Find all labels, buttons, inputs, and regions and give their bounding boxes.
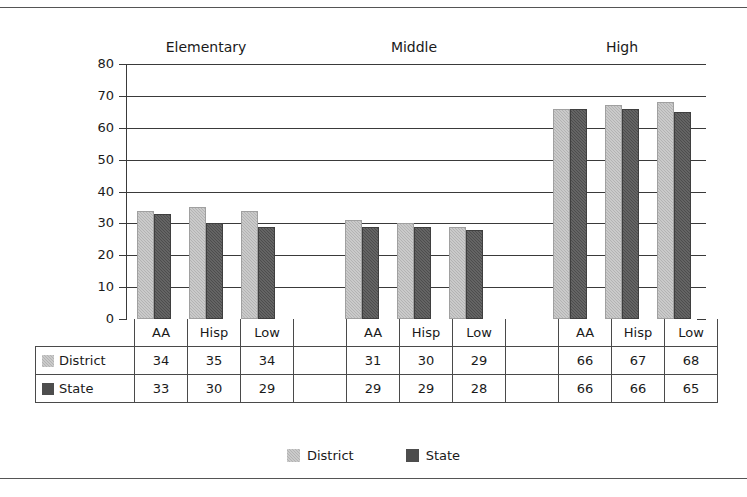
- bar-group: [180, 64, 232, 319]
- bar-state: [466, 230, 483, 319]
- legend-label: State: [426, 448, 460, 463]
- table-value-cell: 29: [241, 375, 294, 403]
- group-heading-high: High: [544, 40, 700, 55]
- table-category-header: Hisp: [188, 319, 241, 347]
- group-heading-middle: Middle: [336, 40, 492, 55]
- table-value-cell: 66: [559, 347, 612, 375]
- bar-group: [128, 64, 180, 319]
- group-heading-elementary: Elementary: [128, 40, 284, 55]
- bar-group: [388, 64, 440, 319]
- bar-group: [648, 64, 700, 319]
- bar-group: [440, 64, 492, 319]
- bar-district: [553, 109, 570, 319]
- table-category-header: AA: [347, 319, 400, 347]
- table-value-cell: 31: [347, 347, 400, 375]
- table-category-header: Low: [241, 319, 294, 347]
- bar-state: [414, 227, 431, 319]
- bar-district: [241, 211, 258, 319]
- table-value-cell: 65: [665, 375, 718, 403]
- table-row-label: State: [36, 375, 135, 403]
- bar-state: [206, 223, 223, 319]
- bar-state: [570, 109, 587, 319]
- bar-state: [622, 109, 639, 319]
- legend-item: District: [287, 448, 354, 463]
- legend-label: District: [307, 448, 354, 463]
- table-row-label-text: District: [59, 353, 106, 368]
- legend-swatch-district-icon: [287, 449, 300, 462]
- table-value-cell: 67: [612, 347, 665, 375]
- table-row-label: District: [36, 347, 135, 375]
- bar-district: [189, 207, 206, 319]
- table-category-header: Hisp: [612, 319, 665, 347]
- bar-district: [449, 227, 466, 319]
- table-value-cell: 66: [612, 375, 665, 403]
- bar-district: [657, 102, 674, 319]
- table-category-header: Low: [453, 319, 506, 347]
- table-category-header: AA: [559, 319, 612, 347]
- legend-item: State: [406, 448, 460, 463]
- bar-state: [258, 227, 275, 319]
- table-value-cell: 33: [135, 375, 188, 403]
- table-category-header: Hisp: [400, 319, 453, 347]
- table-row-label-text: State: [59, 381, 93, 396]
- table-spacer-cell: [294, 319, 347, 347]
- table-spacer-cell: [506, 319, 559, 347]
- table-value-cell: 29: [347, 375, 400, 403]
- table-value-cell: 34: [241, 347, 294, 375]
- bar-district: [345, 220, 362, 319]
- table-value-cell: 35: [188, 347, 241, 375]
- table-spacer-cell: [294, 347, 347, 375]
- bar-group: [232, 64, 284, 319]
- table-value-cell: 29: [400, 375, 453, 403]
- table-row: District343534313029666768: [36, 347, 718, 375]
- table-value-cell: 30: [188, 375, 241, 403]
- table-row: State333029292928666665: [36, 375, 718, 403]
- table-spacer-cell: [294, 375, 347, 403]
- bar-group: [336, 64, 388, 319]
- table-value-cell: 28: [453, 375, 506, 403]
- table-category-header: AA: [135, 319, 188, 347]
- table-value-cell: 68: [665, 347, 718, 375]
- bar-district: [605, 105, 622, 319]
- table-spacer-cell: [506, 375, 559, 403]
- bar-state: [674, 112, 691, 319]
- bar-group: [544, 64, 596, 319]
- bar-group: [596, 64, 648, 319]
- table-category-header: Low: [665, 319, 718, 347]
- bar-state: [362, 227, 379, 319]
- table-corner-cell: [36, 319, 135, 347]
- table-value-cell: 29: [453, 347, 506, 375]
- district-swatch-icon: [42, 355, 54, 367]
- table-spacer-cell: [506, 347, 559, 375]
- bar-district: [397, 223, 414, 319]
- state-swatch-icon: [42, 383, 54, 395]
- legend-swatch-state-icon: [406, 449, 419, 462]
- grouped-bar-chart: Elementary Middle High 80706050403020100: [0, 0, 747, 497]
- chart-legend: DistrictState: [0, 448, 747, 463]
- bar-district: [137, 211, 154, 319]
- table-value-cell: 66: [559, 375, 612, 403]
- table-header-row: AAHispLowAAHispLowAAHispLow: [36, 319, 718, 347]
- table-value-cell: 30: [400, 347, 453, 375]
- bar-state: [154, 214, 171, 319]
- data-table: AAHispLowAAHispLowAAHispLowDistrict34353…: [35, 319, 718, 403]
- table-value-cell: 34: [135, 347, 188, 375]
- bars-layer: [0, 64, 747, 319]
